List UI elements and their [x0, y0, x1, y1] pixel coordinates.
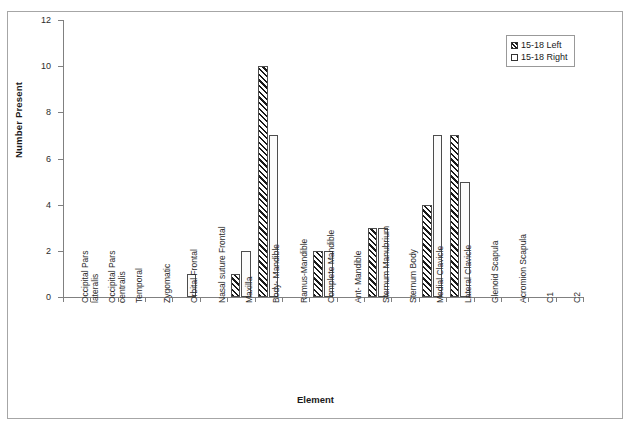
bar-left[interactable]	[422, 205, 432, 297]
x-axis-label-line1: C2	[572, 292, 582, 303]
x-axis-tick	[556, 297, 557, 302]
x-axis-label-line1: Medial Clavicle	[435, 246, 445, 303]
legend-item-right[interactable]: 15-18 Right	[511, 51, 568, 63]
y-axis-tick	[58, 251, 63, 252]
x-axis-label-line2: centralis	[118, 251, 128, 303]
x-axis-label-line1: Zygomatic	[162, 264, 172, 303]
x-axis-category-label: Acromion Scapula	[519, 234, 529, 303]
x-axis-category-label: Occipital Parslateralis	[81, 251, 100, 303]
x-axis-tick	[364, 297, 365, 302]
x-axis-category-label: Maxilla	[245, 277, 255, 303]
x-axis-tick	[337, 297, 338, 302]
x-axis-category-label: C2	[573, 292, 583, 303]
x-axis-label-line1: Nasal suture Frontal	[217, 226, 227, 303]
x-axis-label-line1: Orbital Frontal	[189, 249, 199, 303]
x-axis-tick	[145, 297, 146, 302]
x-axis-category-label: Glenoid Scapula	[491, 241, 501, 303]
y-axis-tick-label: 2	[0, 246, 51, 255]
y-axis-tick-label: 6	[0, 154, 51, 163]
x-axis-label-line1: Glenoid Scapula	[490, 241, 500, 303]
x-axis-label-line1: Sternum Body	[408, 249, 418, 303]
legend-label-left: 15-18 Left	[521, 40, 562, 51]
y-axis-tick	[58, 159, 63, 160]
x-axis-tick	[474, 297, 475, 302]
x-axis-category-label: Complete Mandible	[327, 230, 337, 303]
bar-left[interactable]	[231, 274, 241, 297]
x-axis-label-line1: Occipital Pars	[107, 251, 117, 303]
x-axis-label-line1: Lateral Clavicle	[463, 245, 473, 303]
x-axis-category-label: Orbital Frontal	[190, 249, 200, 303]
x-axis-label-line1: Maxilla	[244, 277, 254, 303]
x-axis-tick	[501, 297, 502, 302]
y-axis-tick-label: 4	[0, 200, 51, 209]
x-axis-tick	[446, 297, 447, 302]
x-axis-tick	[583, 297, 584, 302]
x-axis-label-line1: Complete Mandible	[326, 230, 336, 303]
x-axis-category-label: Lateral Clavicle	[464, 245, 474, 303]
x-axis-label-line2: lateralis	[90, 251, 100, 303]
x-axis-label-line1: Occipital Pars	[80, 251, 90, 303]
bar-left[interactable]	[450, 135, 460, 297]
x-axis-tick	[255, 297, 256, 302]
x-axis-category-label: Sternum Manubrium	[382, 226, 392, 303]
y-axis-tick	[58, 112, 63, 113]
bar-left[interactable]	[313, 251, 323, 297]
chart-legend: 15-18 Left 15-18 Right	[506, 35, 575, 67]
y-axis-tick-label: 12	[0, 16, 51, 25]
y-axis-tick	[58, 66, 63, 67]
y-axis-tick	[58, 20, 63, 21]
legend-item-left[interactable]: 15-18 Left	[511, 39, 568, 51]
x-axis-category-label: Nasal suture Frontal	[218, 226, 228, 303]
x-axis-label-line1: Body- Mandible	[271, 244, 281, 303]
legend-swatch-right-icon	[511, 54, 518, 61]
x-axis-tick	[419, 297, 420, 302]
y-axis-tick-label: 10	[0, 62, 51, 71]
x-axis-label-line1: Ant- Mandible	[353, 251, 363, 303]
x-axis-tick	[391, 297, 392, 302]
y-axis-tick	[58, 205, 63, 206]
x-axis-category-label: Temporal	[135, 268, 145, 303]
x-axis-category-label: Body- Mandible	[272, 244, 282, 303]
x-axis-category-label: Medial Clavicle	[436, 246, 446, 303]
y-axis-tick-label: 8	[0, 108, 51, 117]
x-axis-label-line1: Sternum Manubrium	[381, 226, 391, 303]
x-axis-label-line1: C1	[545, 292, 555, 303]
bar-left[interactable]	[258, 66, 268, 297]
x-axis-label-line1: Acromion Scapula	[518, 234, 528, 303]
x-axis-label-line1: Ramus-Mandible	[299, 239, 309, 303]
y-axis-title: Number Present	[13, 82, 24, 158]
x-axis-tick	[63, 297, 64, 302]
legend-swatch-left-icon	[511, 42, 518, 49]
x-axis-category-label: Zygomatic	[163, 264, 173, 303]
x-axis-title: Element	[0, 394, 631, 405]
x-axis-category-label: Ant- Mandible	[354, 251, 364, 303]
x-axis-category-label: Ramus-Mandible	[300, 239, 310, 303]
x-axis-tick	[172, 297, 173, 302]
x-axis-category-label: C1	[546, 292, 556, 303]
x-axis-tick	[200, 297, 201, 302]
y-axis-tick-label: 0	[0, 293, 51, 302]
x-axis-label-line1: Temporal	[134, 268, 144, 303]
x-axis-category-label: Sternum Body	[409, 249, 419, 303]
legend-label-right: 15-18 Right	[521, 52, 568, 63]
plot-area	[63, 20, 583, 297]
x-axis-tick	[282, 297, 283, 302]
bar-left[interactable]	[368, 228, 378, 297]
x-axis-category-label: Occipital Parscentralis	[108, 251, 127, 303]
chart-figure: Number Present Element 024681012 Occipit…	[0, 0, 631, 428]
